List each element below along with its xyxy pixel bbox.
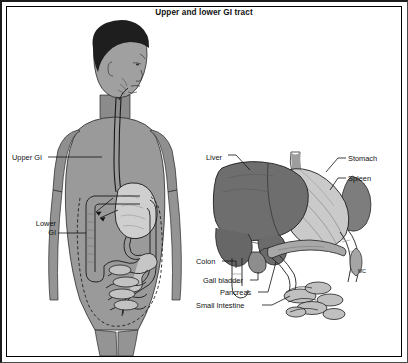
human-figure <box>49 20 182 356</box>
label-spleen: Spleen <box>348 174 371 183</box>
figure-title: Upper and lower GI tract <box>0 8 408 17</box>
label-stomach: Stomach <box>348 154 377 163</box>
figure-root: Upper and lower GI tract Upper GI Lower … <box>0 0 408 363</box>
label-lower-gi-line2: GI <box>0 228 56 237</box>
label-lower-gi: Lower GI <box>0 219 56 237</box>
label-colon: Colon <box>196 257 215 266</box>
label-gall-bladder: Gall bladder <box>203 276 243 285</box>
label-pancreas: Pancreas <box>220 288 251 297</box>
label-liver: Liver <box>206 153 222 162</box>
label-mc: MC <box>358 267 366 276</box>
label-upper-gi: Upper GI <box>12 153 42 162</box>
label-small-intestine: Small Intestine <box>196 301 244 310</box>
label-lower-gi-line1: Lower <box>0 219 56 228</box>
